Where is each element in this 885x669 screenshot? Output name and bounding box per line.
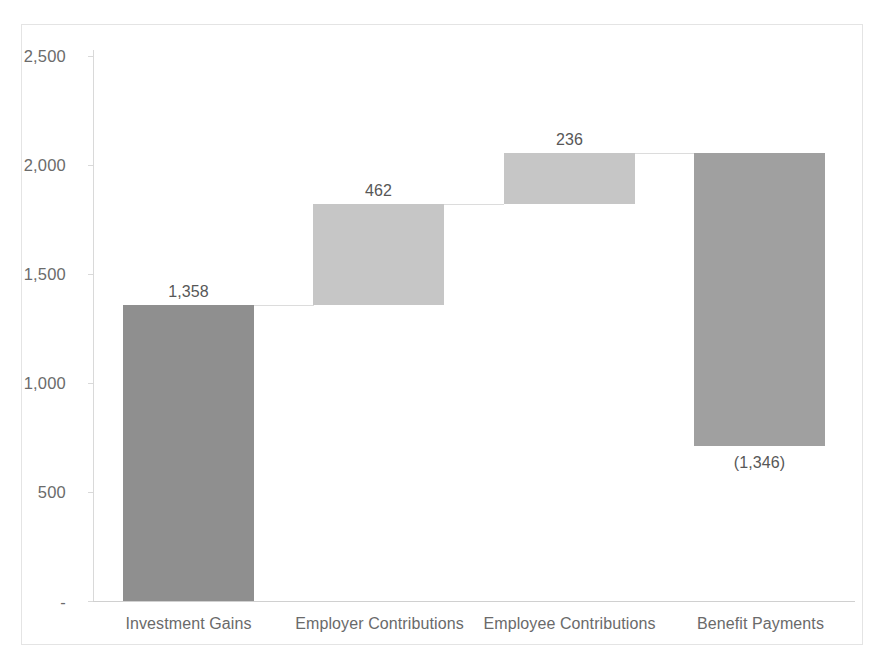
value-label-employer-contributions: 462 bbox=[313, 183, 444, 199]
y-tick-mark-2000 bbox=[88, 165, 93, 166]
bar-benefit-payments[interactable] bbox=[694, 153, 825, 446]
x-axis-baseline bbox=[93, 601, 855, 602]
y-tick-label-1500: 1,500 bbox=[0, 266, 66, 283]
waterfall-chart: 2,500 2,000 1,500 1,000 500 - 1,358 462 … bbox=[0, 0, 885, 669]
y-tick-mark-500 bbox=[88, 492, 93, 493]
y-tick-label-500: 500 bbox=[0, 484, 66, 501]
value-label-investment-gains: 1,358 bbox=[123, 284, 254, 300]
value-label-benefit-payments: (1,346) bbox=[694, 455, 825, 471]
category-label-employee-contributions: Employee Contributions bbox=[474, 616, 665, 632]
y-tick-label-1000: 1,000 bbox=[0, 375, 66, 392]
category-label-benefit-payments: Benefit Payments bbox=[665, 616, 856, 632]
y-tick-mark-1000 bbox=[88, 383, 93, 384]
category-label-investment-gains: Investment Gains bbox=[93, 616, 284, 632]
y-tick-label-2500: 2,500 bbox=[0, 48, 66, 65]
bar-investment-gains[interactable] bbox=[123, 305, 254, 601]
category-label-employer-contributions: Employer Contributions bbox=[284, 616, 475, 632]
y-tick-label-2000: 2,000 bbox=[0, 157, 66, 174]
y-axis-line bbox=[93, 50, 94, 601]
value-label-employee-contributions: 236 bbox=[504, 132, 635, 148]
bar-employer-contributions[interactable] bbox=[313, 204, 444, 305]
y-tick-mark-1500 bbox=[88, 274, 93, 275]
y-tick-mark-0 bbox=[88, 601, 93, 602]
y-tick-label-0: - bbox=[0, 594, 66, 611]
y-tick-mark-2500 bbox=[88, 56, 93, 57]
bar-employee-contributions[interactable] bbox=[504, 153, 635, 204]
